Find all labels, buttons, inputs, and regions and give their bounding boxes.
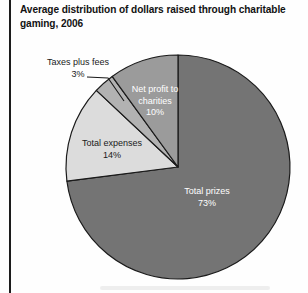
- pie-chart: [0, 0, 308, 293]
- bottom-scan-artifact: [100, 286, 270, 290]
